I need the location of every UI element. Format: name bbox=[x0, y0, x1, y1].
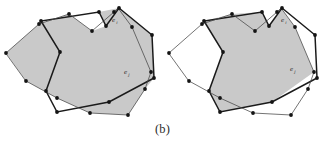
left-union-shaded-region bbox=[6, 8, 154, 115]
figure-svg-canvas: e i e j bbox=[0, 0, 325, 141]
label-ei-right-base: e bbox=[281, 16, 284, 24]
figure-container: e i e j bbox=[0, 0, 325, 141]
label-ei-left-base: e bbox=[112, 16, 115, 24]
figure-caption: (b) bbox=[0, 122, 325, 137]
label-ej-right-base: e bbox=[290, 65, 293, 73]
label-ej-left-base: e bbox=[124, 68, 127, 76]
right-panel: e i e j bbox=[167, 6, 319, 117]
left-panel: e i e j bbox=[4, 6, 156, 117]
